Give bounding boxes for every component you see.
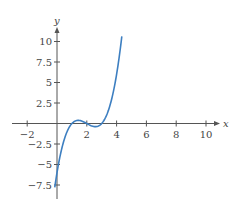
y-tick-label: 2.5 [36,98,52,109]
y-tick-label: −5 [37,159,52,170]
x-tick-label: 2 [84,129,90,140]
x-tick-label: 6 [143,129,149,140]
y-tick-label: −2.5 [28,139,52,150]
y-tick-label: 7.5 [36,57,52,68]
y-axis-label: y [53,15,60,26]
y-tick-label: 10 [39,36,52,47]
y-tick-label: −7.5 [28,180,52,191]
x-tick-label: 4 [113,129,119,140]
y-axis-arrow-icon [55,27,60,33]
axes [12,27,220,199]
x-tick-label: 10 [200,129,213,140]
x-axis-label: x [223,118,229,129]
y-tick-label: 5 [46,77,52,88]
x-tick-label: 8 [173,129,179,140]
function-plot: −2246810−7.5−5−2.52.557.510 x y [0,0,236,202]
function-curve [55,36,122,187]
x-axis-arrow-icon [214,121,220,126]
ticks: −2246810−7.5−5−2.52.557.510 [20,36,213,191]
